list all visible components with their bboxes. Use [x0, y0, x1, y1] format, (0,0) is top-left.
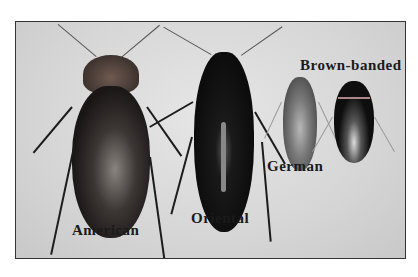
cockroach-photo: American Oriental German Brown-banded	[15, 21, 406, 259]
label-german: German	[267, 158, 323, 175]
label-oriental: Oriental	[191, 210, 249, 227]
label-brown-banded: Brown-banded	[300, 57, 402, 74]
label-american: American	[72, 222, 139, 239]
